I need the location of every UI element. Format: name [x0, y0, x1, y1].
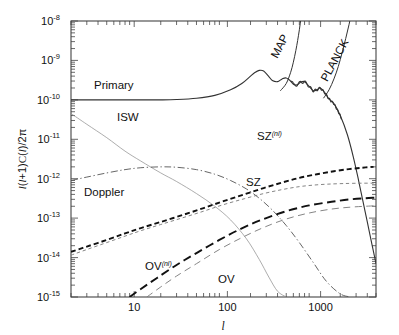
- svg-text:10-15: 10-15: [37, 289, 60, 303]
- x-tick-label: 10: [128, 301, 140, 313]
- x-tick-label: 100: [218, 301, 236, 313]
- svg-text:10-8: 10-8: [41, 13, 60, 27]
- svg-text:10-10: 10-10: [37, 92, 60, 106]
- label-ov: OV: [218, 273, 235, 285]
- y-tick-labels: 10-8 10-9 10-10 10-11 10-12 10-13 10-14 …: [37, 13, 60, 303]
- y-tick-label: 10-13: [37, 210, 60, 224]
- label-sz-nl: SZ(nl): [257, 130, 282, 143]
- plot-svg: 10-8 10-9 10-10 10-11 10-12 10-13 10-14 …: [0, 0, 399, 335]
- svg-text:l(l+1)C(l)/2π: l(l+1)C(l)/2π: [16, 128, 28, 189]
- svg-text:10-9: 10-9: [41, 52, 60, 66]
- curve-primary-acoustic-wiggles: [291, 81, 342, 119]
- x-tick-labels: 10 100 1000: [128, 301, 333, 313]
- x-axis-label: l: [221, 320, 224, 332]
- label-sz: SZ: [246, 176, 261, 188]
- curves-layer: [71, 0, 376, 297]
- label-isw: ISW: [117, 111, 139, 123]
- cmb-power-spectrum-figure: 10-8 10-9 10-10 10-11 10-12 10-13 10-14 …: [0, 0, 399, 335]
- svg-text:10-13: 10-13: [37, 210, 60, 224]
- y-tick-label: 10-15: [37, 289, 60, 303]
- y-tick-label: 10-12: [37, 171, 60, 185]
- svg-text:10-14: 10-14: [37, 250, 60, 264]
- y-tick-label: 10-11: [37, 131, 60, 145]
- y-axis-label: l(l+1)C(l)/2π: [16, 128, 28, 189]
- svg-text:10-12: 10-12: [37, 171, 60, 185]
- y-tick-label: 10-9: [41, 52, 60, 66]
- curve-annotations: Primary ISW Doppler SZ SZ(nl) OV OV(nl) …: [84, 32, 351, 285]
- label-map: MAP: [268, 32, 290, 60]
- svg-text:10-11: 10-11: [37, 131, 60, 145]
- y-tick-label: 10-10: [37, 92, 60, 106]
- curve-ov: [147, 206, 375, 297]
- y-tick-label: 10-14: [37, 250, 60, 264]
- y-tick-label: 10-8: [41, 13, 60, 27]
- x-tick-label: 1000: [308, 301, 332, 313]
- label-primary: Primary: [94, 79, 134, 91]
- label-doppler: Doppler: [84, 186, 124, 198]
- x-major-ticks: [134, 21, 320, 297]
- curve-isw: [71, 114, 286, 297]
